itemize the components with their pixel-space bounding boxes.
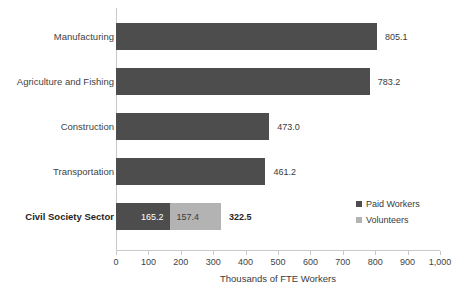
- x-tick-label-1000: 1,000: [429, 257, 452, 267]
- bar-total-label: 805.1: [385, 32, 408, 42]
- x-tick-700: [343, 251, 344, 255]
- x-tick-300: [213, 251, 214, 255]
- legend-swatch-icon: [356, 201, 362, 207]
- legend-swatch-icon: [356, 217, 362, 223]
- x-tick-600: [310, 251, 311, 255]
- x-tick-label-300: 300: [206, 257, 221, 267]
- x-axis-title: Thousands of FTE Workers: [116, 273, 440, 284]
- bar-total-label: 461.2: [273, 167, 296, 177]
- x-tick-1000: [440, 251, 441, 255]
- x-tick-500: [278, 251, 279, 255]
- bar-chart: Manufacturing Agriculture and Fishing Co…: [0, 0, 457, 298]
- bar-total-label: 783.2: [378, 77, 401, 87]
- bar-total-label: 473.0: [277, 122, 300, 132]
- category-label-agriculture-and-fishing: Agriculture and Fishing: [4, 76, 114, 87]
- bar-segment-paid[interactable]: [116, 68, 370, 95]
- legend-label: Paid Workers: [366, 199, 420, 209]
- bar-segment-paid[interactable]: 165.2: [116, 203, 170, 230]
- x-tick-900: [408, 251, 409, 255]
- x-tick-label-800: 800: [368, 257, 383, 267]
- legend-item-volunteers[interactable]: Volunteers: [356, 212, 420, 228]
- x-tick-0: [116, 251, 117, 255]
- legend-item-paid-workers[interactable]: Paid Workers: [356, 196, 420, 212]
- category-label-transportation: Transportation: [4, 166, 114, 177]
- category-label-manufacturing: Manufacturing: [4, 31, 114, 42]
- legend-label: Volunteers: [366, 215, 409, 225]
- x-tick-200: [181, 251, 182, 255]
- x-tick-100: [148, 251, 149, 255]
- x-tick-400: [246, 251, 247, 255]
- x-tick-label-600: 600: [303, 257, 318, 267]
- category-label-construction: Construction: [4, 121, 114, 132]
- bar-segment-paid[interactable]: [116, 23, 377, 50]
- x-tick-label-0: 0: [113, 257, 118, 267]
- bar-segment-paid-label: 165.2: [141, 212, 164, 222]
- x-tick-label-100: 100: [141, 257, 156, 267]
- x-tick-label-500: 500: [270, 257, 285, 267]
- bar-segment-paid[interactable]: [116, 113, 269, 140]
- legend: Paid Workers Volunteers: [356, 196, 420, 228]
- bar-segment-volunteers[interactable]: 157.4: [170, 203, 221, 230]
- x-tick-800: [375, 251, 376, 255]
- x-tick-label-700: 700: [335, 257, 350, 267]
- bar-segment-volunteers-label: 157.4: [177, 212, 200, 222]
- bar-total-label: 322.5: [229, 212, 252, 222]
- x-tick-label-900: 900: [400, 257, 415, 267]
- category-label-civil-society-sector: Civil Society Sector: [4, 211, 114, 222]
- bar-segment-paid[interactable]: [116, 158, 265, 185]
- x-tick-label-400: 400: [238, 257, 253, 267]
- x-tick-label-200: 200: [173, 257, 188, 267]
